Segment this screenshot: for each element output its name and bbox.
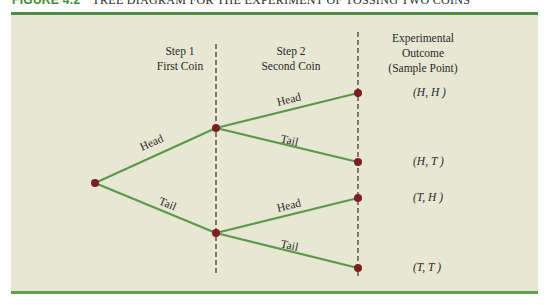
node-tail [212, 229, 220, 237]
label-hh: Head [276, 90, 303, 108]
label-th: Head [276, 196, 303, 214]
label-first-head: Head [138, 132, 165, 153]
root-node [91, 179, 99, 187]
label-tt: Tail [280, 237, 300, 253]
node-head [212, 124, 220, 132]
outcome-ht: (H, T ) [413, 155, 444, 167]
leaf-th [354, 194, 362, 202]
outcome-tt: (T, T ) [413, 261, 441, 273]
outcome-th: (T, H ) [413, 191, 443, 203]
leaf-tt [354, 264, 362, 272]
branch-first-tail [95, 183, 216, 233]
label-ht: Tail [280, 132, 300, 148]
leaf-hh [354, 89, 362, 97]
leaf-ht [354, 158, 362, 166]
tree-diagram: Head Tail Head Tail Head Tail [0, 0, 549, 305]
outcome-hh: (H, H ) [413, 86, 446, 98]
